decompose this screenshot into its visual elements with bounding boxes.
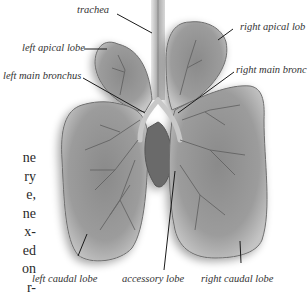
left-caudal-lobe bbox=[62, 102, 148, 261]
label-left-caudal-lobe: left caudal lobe bbox=[32, 273, 97, 284]
trachea bbox=[151, 0, 165, 100]
label-right-caudal-lobe: right caudal lobe bbox=[201, 273, 273, 284]
label-left-apical-lobe: left apical lobe bbox=[22, 42, 85, 53]
label-right-main-bronchus: right main bronc bbox=[236, 64, 307, 75]
right-caudal-lobe bbox=[169, 86, 267, 258]
label-trachea: trachea bbox=[77, 4, 109, 15]
label-accessory-lobe: accessory lobe bbox=[122, 273, 184, 284]
label-left-main-bronchus: left main bronchus bbox=[3, 70, 81, 81]
label-right-apical-lobe: right apical lob bbox=[240, 21, 305, 32]
accessory-lobe bbox=[145, 122, 172, 187]
